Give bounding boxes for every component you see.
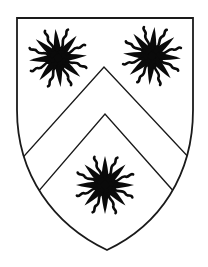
coat-of-arms (0, 0, 208, 267)
shield (0, 0, 208, 267)
sun-icon-base (76, 156, 134, 214)
